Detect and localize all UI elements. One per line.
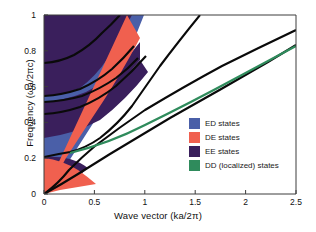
legend-label-ed: ED states: [205, 120, 240, 128]
legend-swatch-ee-icon: [189, 146, 200, 157]
legend-label-de: DE states: [205, 134, 240, 142]
x-axis-title: Wave vector (ka/2π): [0, 210, 316, 221]
y-axis-title-wrapper: Frequency (ωa/2πc): [19, 23, 37, 183]
legend-swatch-de-icon: [189, 132, 200, 143]
legend-swatch-ed-icon: [189, 118, 200, 129]
legend-label-dd: DD (localized) states: [205, 162, 279, 170]
legend-item-dd: DD (localized) states: [189, 160, 279, 171]
legend-item-ed: ED states: [189, 118, 240, 129]
x-tick-label-4: 2: [231, 197, 261, 207]
y-tick-label-5: 1: [6, 10, 36, 20]
legend-label-ee: EE states: [205, 148, 239, 156]
legend-swatch-dd-icon: [189, 160, 200, 171]
legend-item-de: DE states: [189, 132, 240, 143]
x-tick-label-2: 1: [130, 197, 160, 207]
x-tick-label-0: 0: [29, 197, 59, 207]
y-axis-title: Frequency (ωa/2πc): [24, 59, 35, 147]
legend-item-ee: EE states: [189, 146, 239, 157]
x-tick-label-5: 2.5: [281, 197, 311, 207]
x-tick-label-3: 1.5: [180, 197, 210, 207]
photonic-band-diagram-figure: 0 0.2 0.4 0.6 0.8 1 0 0.5 1 1.5 2 2.5 Wa…: [0, 0, 316, 232]
x-tick-label-1: 0.5: [79, 197, 109, 207]
